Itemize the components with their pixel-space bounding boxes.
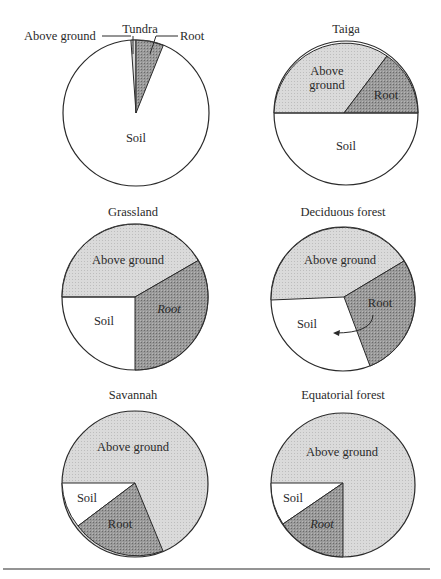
pie-grassland: Grassland Above ground Root Soil bbox=[62, 205, 208, 370]
pie-tundra: Tundra Above ground Root Soil bbox=[24, 22, 209, 186]
chart-title: Grassland bbox=[108, 205, 159, 219]
label-soil: Soil bbox=[94, 314, 115, 328]
label-above-ground: Above ground bbox=[97, 440, 170, 454]
label-above-ground: Above ground bbox=[92, 253, 165, 267]
label-above-ground: Above ground bbox=[304, 253, 377, 267]
label-soil: Soil bbox=[336, 139, 357, 153]
label-ground: ground bbox=[309, 78, 345, 92]
label-soil: Soil bbox=[297, 317, 318, 331]
pie-savannah: Savannah Above ground Soil Root bbox=[62, 388, 208, 557]
biome-pie-charts: Tundra Above ground Root Soil Taiga Abov… bbox=[0, 0, 441, 579]
label-root: Root bbox=[180, 29, 205, 43]
chart-title: Equatorial forest bbox=[301, 388, 385, 402]
pie-equatorial-forest: Equatorial forest Above ground Soil Root bbox=[271, 388, 415, 557]
chart-title: Deciduous forest bbox=[300, 205, 386, 219]
label-root: Root bbox=[309, 517, 334, 531]
label-root: Root bbox=[368, 296, 393, 310]
label-soil: Soil bbox=[126, 131, 147, 145]
label-above-ground: Above ground bbox=[306, 445, 379, 459]
label-above: Above bbox=[310, 64, 344, 78]
label-soil: Soil bbox=[77, 491, 98, 505]
label-root: Root bbox=[108, 517, 133, 531]
label-root: Root bbox=[374, 88, 399, 102]
pie-taiga: Taiga Above ground Root Soil bbox=[274, 22, 418, 185]
label-root: Root bbox=[156, 302, 181, 316]
chart-title: Tundra bbox=[122, 22, 158, 36]
label-above-ground: Above ground bbox=[24, 29, 97, 43]
chart-title: Savannah bbox=[109, 388, 158, 402]
pie-deciduous-forest: Deciduous forest Above ground Root Soil bbox=[271, 205, 415, 371]
chart-title: Taiga bbox=[332, 22, 360, 36]
label-soil: Soil bbox=[283, 491, 304, 505]
